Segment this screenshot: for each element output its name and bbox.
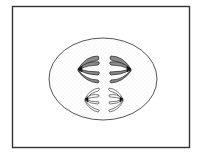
cell-membrane: [49, 38, 157, 120]
cell-division-diagram: [0, 0, 200, 158]
